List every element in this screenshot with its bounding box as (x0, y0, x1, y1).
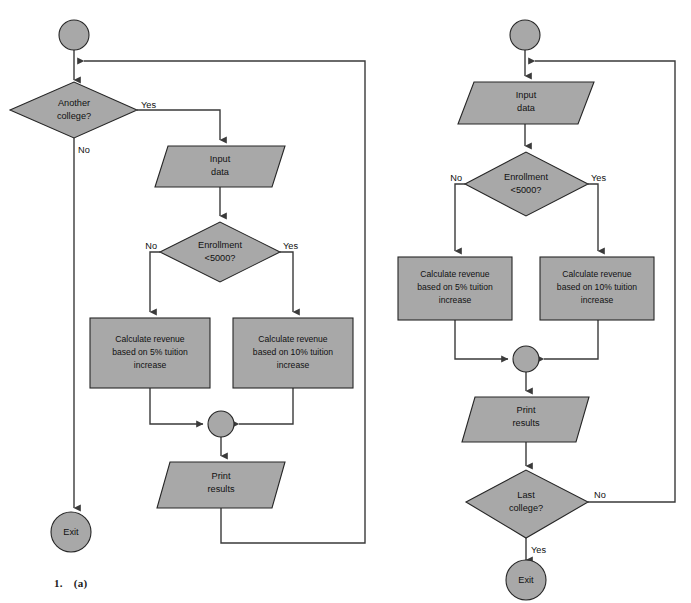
exit-terminator-label: Exit (63, 527, 79, 537)
caption-number: 1. (54, 577, 63, 589)
calc-10-line3: increase (277, 360, 310, 370)
calc-10-line2: based on 10% tuition (557, 282, 637, 292)
right-flowchart: Input data Enrollment <5000? Calculate r… (398, 20, 675, 600)
calc-5-line2: based on 5% tuition (417, 282, 493, 292)
edge-label-last-college-no: No (594, 490, 606, 500)
enrollment-decision[interactable] (465, 152, 588, 216)
another-college-decision[interactable] (10, 82, 137, 138)
flowchart-canvas: Another college? Input data Enrollment <… (0, 0, 691, 603)
calc-5-line2: based on 5% tuition (112, 347, 188, 357)
enrollment-decision-line2: <5000? (511, 185, 542, 195)
edge-label-enrollment-no: No (450, 173, 462, 183)
enrollment-decision[interactable] (160, 222, 280, 282)
edge-label-enrollment-yes: Yes (283, 241, 298, 251)
calc-5-line3: increase (439, 295, 472, 305)
edge-label-enrollment-yes: Yes (591, 173, 606, 183)
edge-process-5-to-merge (150, 388, 203, 424)
start-terminator[interactable] (59, 20, 89, 50)
merge-connector[interactable] (513, 346, 539, 372)
calc-10-line1: Calculate revenue (562, 269, 631, 279)
input-data-io-line1: Input (210, 154, 231, 164)
edge-enrollment-yes-to-process-10 (588, 184, 598, 251)
edge-process-5-to-merge (455, 320, 508, 359)
edge-label-another-college-no: No (78, 145, 90, 155)
edge-process-10-to-merge (239, 388, 293, 424)
edge-process-10-to-merge (544, 320, 598, 359)
enrollment-decision-line1: Enrollment (504, 172, 548, 182)
calc-5-line3: increase (134, 360, 167, 370)
left-flowchart: Another college? Input data Enrollment <… (10, 20, 365, 552)
exit-terminator-label: Exit (518, 575, 534, 585)
edge-enrollment-no-to-process-5 (150, 252, 160, 312)
edge-another-college-yes-to-input (137, 110, 220, 140)
calc-10-line2: based on 10% tuition (253, 347, 333, 357)
print-results-line1: Print (212, 471, 231, 481)
last-college-line1: Last (517, 490, 535, 500)
edge-enrollment-no-to-process-5 (455, 184, 465, 251)
print-results-line2: results (512, 418, 539, 428)
calc-5-line1: Calculate revenue (115, 334, 184, 344)
print-results-line2: results (207, 484, 234, 494)
caption-label: (a) (74, 577, 88, 589)
calc-10-line3: increase (581, 295, 614, 305)
edge-label-another-college-yes: Yes (141, 100, 156, 110)
flowchart-figure: Another college? Input data Enrollment <… (0, 0, 691, 603)
input-data-io-line1: Input (516, 90, 537, 100)
another-college-decision-line1: Another (58, 98, 90, 108)
figure-caption: 1.(a) (54, 577, 88, 589)
calc-5-line1: Calculate revenue (420, 269, 489, 279)
merge-connector[interactable] (208, 411, 234, 437)
edge-label-enrollment-no: No (145, 241, 157, 251)
print-results-line1: Print (517, 405, 536, 415)
calc-10-line1: Calculate revenue (258, 334, 327, 344)
edge-enrollment-yes-to-process-10 (280, 252, 293, 312)
start-terminator[interactable] (510, 20, 540, 50)
enrollment-decision-line1: Enrollment (198, 240, 242, 250)
input-data-io-line2: data (211, 167, 230, 177)
edge-label-last-college-yes: Yes (531, 545, 546, 555)
last-college-line2: college? (509, 503, 543, 513)
input-data-io-line2: data (517, 103, 536, 113)
another-college-decision-line2: college? (57, 111, 91, 121)
enrollment-decision-line2: <5000? (205, 253, 236, 263)
